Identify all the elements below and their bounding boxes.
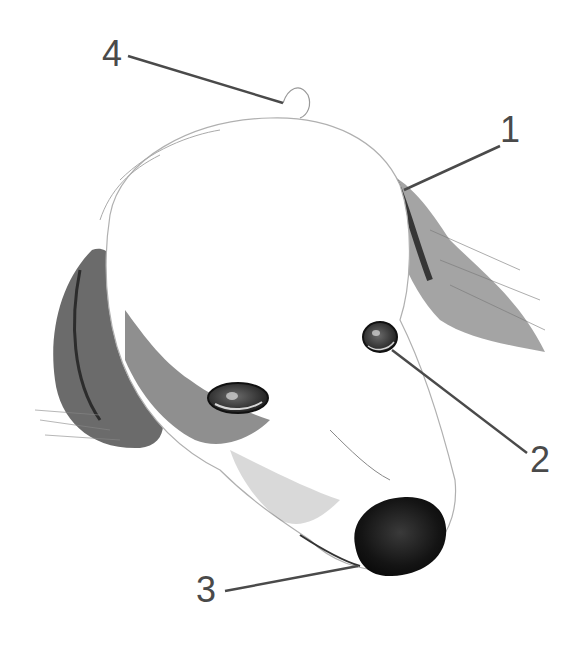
leader-line-4	[128, 56, 283, 103]
dog-sketch-illustration	[0, 0, 586, 645]
right-eye	[363, 322, 397, 352]
leader-line-1	[404, 146, 500, 190]
callout-label-2: 2	[530, 442, 550, 478]
callout-label-4: 4	[102, 36, 122, 72]
leader-line-3	[225, 566, 358, 591]
left-eye	[208, 383, 268, 413]
callout-label-3: 3	[196, 572, 216, 608]
callout-label-1: 1	[500, 112, 520, 148]
